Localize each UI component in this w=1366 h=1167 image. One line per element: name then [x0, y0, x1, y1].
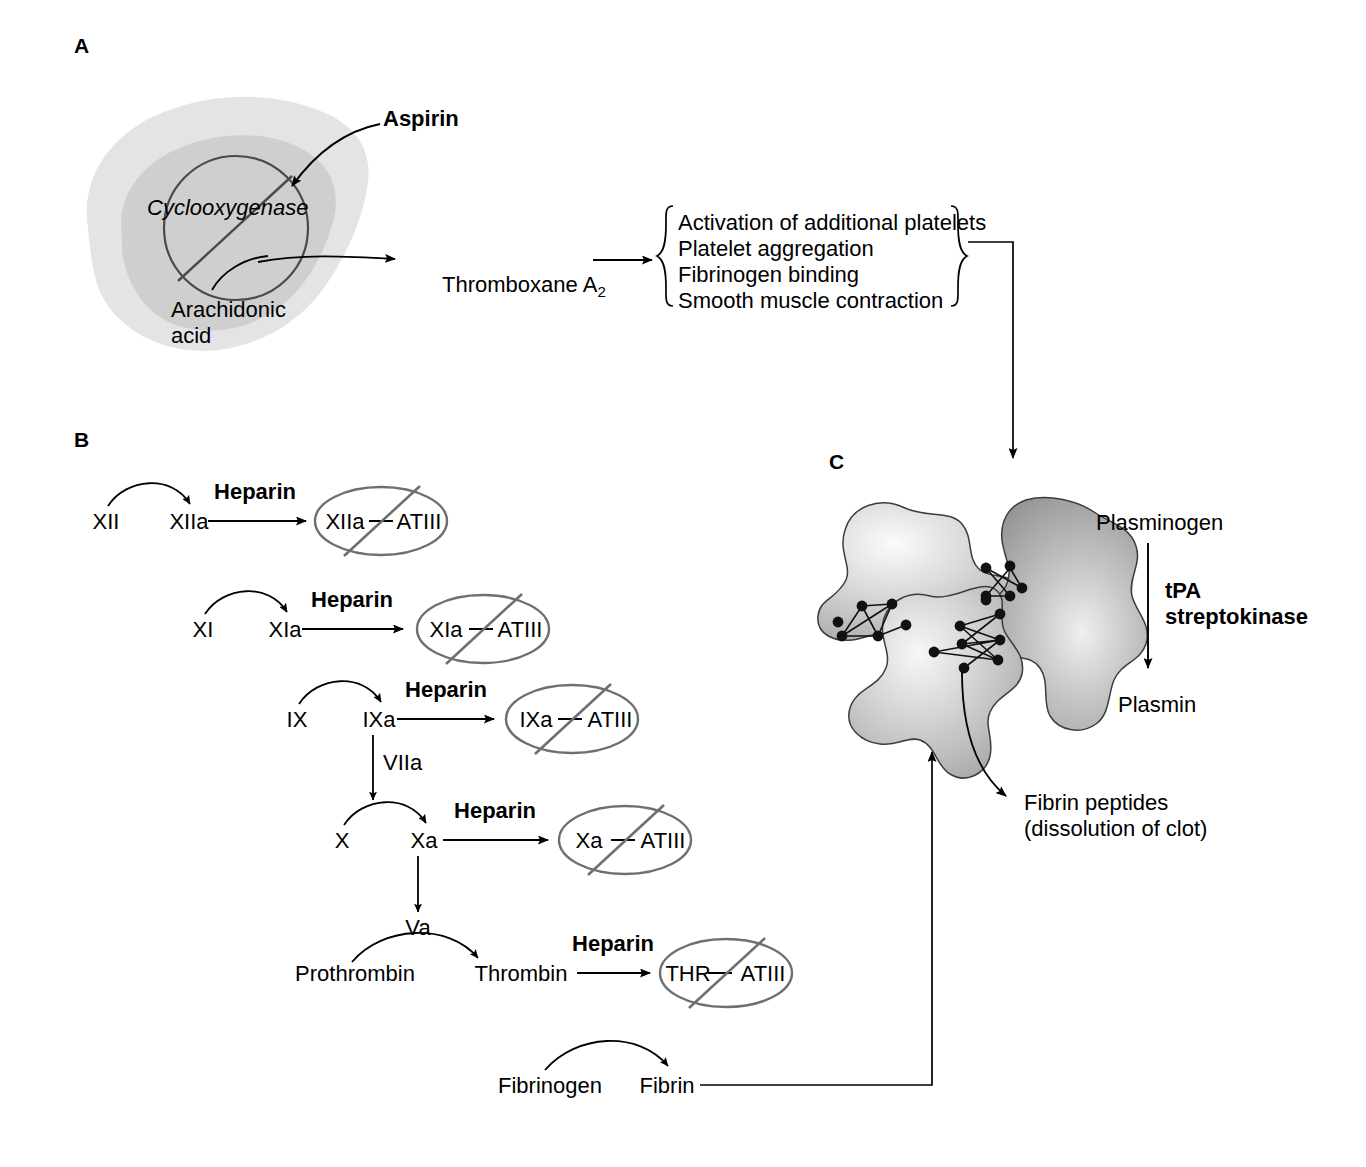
complex-atiii-row-4: ATIII: [641, 828, 686, 854]
cofactor-va: Va: [405, 915, 430, 941]
complex-xia: XIa: [429, 617, 462, 643]
plasminogen-label: Plasminogen: [1096, 510, 1223, 536]
fibrinogen-label: Fibrinogen: [498, 1073, 602, 1099]
tpa-label: tPA: [1165, 578, 1201, 604]
panel-letter-b: B: [74, 428, 89, 452]
factor-xia: XIa: [268, 617, 301, 643]
effects-left-brace: [657, 206, 673, 306]
factor-xiia: XIIa: [169, 509, 208, 535]
complex-ixa: IXa: [519, 707, 552, 733]
complex-atiii-row-1: ATIII: [397, 509, 442, 535]
arachidonic-acid-label-line2: acid: [171, 323, 211, 349]
heparin-label-row-4: Heparin: [454, 798, 536, 824]
complex-atiii-row-2: ATIII: [498, 617, 543, 643]
complex-xiia: XIIa: [325, 509, 364, 535]
complex-atiii-row-3: ATIII: [588, 707, 633, 733]
complex-atiii-row-5: ATIII: [741, 961, 786, 987]
figure-canvas: A B C Aspirin Cyclooxygenase Arachidonic…: [0, 0, 1366, 1167]
thrombin-label: Thrombin: [475, 961, 568, 987]
plasmin-label: Plasmin: [1118, 692, 1196, 718]
factor-xi: XI: [193, 617, 214, 643]
factor-x: X: [335, 828, 350, 854]
factor-xa: Xa: [411, 828, 438, 854]
thromboxane-subscript: 2: [597, 283, 605, 300]
heparin-label-row-5: Heparin: [572, 931, 654, 957]
panel-letter-c: C: [829, 450, 844, 474]
complex-thr: THR: [665, 961, 710, 987]
panel-letter-a: A: [74, 34, 89, 58]
factor-ix: IX: [287, 707, 308, 733]
effect-smooth-muscle-contraction: Smooth muscle contraction: [678, 288, 943, 314]
effect-platelet-aggregation: Platelet aggregation: [678, 236, 874, 262]
thromboxane-label: Thromboxane A2: [418, 246, 606, 326]
streptokinase-label: streptokinase: [1165, 604, 1308, 630]
prothrombin-label: Prothrombin: [295, 961, 415, 987]
heparin-label-row-3: Heparin: [405, 677, 487, 703]
fibrin-label: Fibrin: [639, 1073, 694, 1099]
factor-ixa: IXa: [362, 707, 395, 733]
diagram-graphics: [0, 0, 1366, 1167]
arachidonic-acid-label-line1: Arachidonic: [171, 297, 286, 323]
complex-xa: Xa: [576, 828, 603, 854]
dissolution-of-clot-label: (dissolution of clot): [1024, 816, 1207, 842]
cyclooxygenase-label: Cyclooxygenase: [147, 195, 308, 221]
aspirin-label: Aspirin: [383, 106, 459, 132]
fibrin-peptides-label: Fibrin peptides: [1024, 790, 1168, 816]
effect-fibrinogen-binding: Fibrinogen binding: [678, 262, 859, 288]
cascade-row-6-graphics: [545, 752, 932, 1085]
thromboxane-name: Thromboxane A: [442, 272, 597, 297]
heparin-label-row-1: Heparin: [214, 479, 296, 505]
heparin-label-row-2: Heparin: [311, 587, 393, 613]
factor-xii: XII: [93, 509, 120, 535]
effects-to-clot-connector: [968, 242, 1013, 458]
effect-activation-of-platelets: Activation of additional platelets: [678, 210, 986, 236]
cofactor-viia: VIIa: [383, 750, 422, 776]
